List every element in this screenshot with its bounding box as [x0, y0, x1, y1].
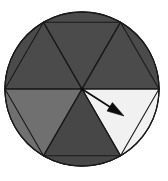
spinner-svg — [0, 0, 168, 181]
spinner-figure — [0, 0, 168, 181]
pointer-hub-icon — [80, 87, 83, 90]
